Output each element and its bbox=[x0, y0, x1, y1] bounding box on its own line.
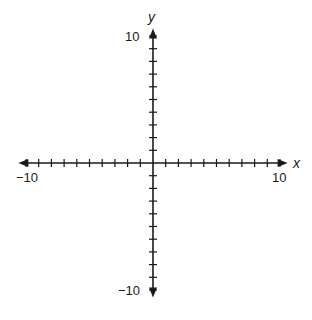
x-min-tick-label: −10 bbox=[16, 171, 38, 184]
coordinate-plane bbox=[0, 0, 312, 320]
y-axis-label: y bbox=[148, 10, 155, 24]
y-min-tick-label: −10 bbox=[118, 284, 140, 297]
y-axis-up-arrow-icon bbox=[149, 28, 157, 38]
y-axis-down-arrow-icon bbox=[149, 288, 157, 298]
x-max-tick-label: 10 bbox=[272, 171, 286, 184]
x-axis-right-arrow-icon bbox=[278, 159, 288, 167]
x-axis-left-arrow-icon bbox=[18, 159, 28, 167]
x-axis-label: x bbox=[293, 156, 300, 170]
y-max-tick-label: 10 bbox=[125, 30, 139, 43]
